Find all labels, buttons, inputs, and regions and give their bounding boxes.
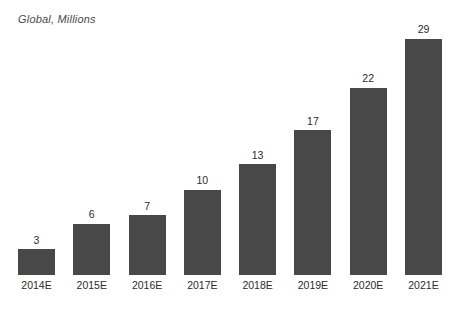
bar-value-label: 17 xyxy=(307,116,319,127)
bar-value-label: 10 xyxy=(197,175,209,186)
bar-group[interactable]: 10 xyxy=(184,24,221,275)
bar-rect[interactable] xyxy=(184,190,221,275)
bar-group[interactable]: 22 xyxy=(350,24,387,275)
bars-row: 3 6 7 10 13 17 xyxy=(18,24,442,275)
bar-value-label: 22 xyxy=(362,73,374,84)
plot-area: 3 6 7 10 13 17 xyxy=(18,24,442,275)
bar-value-label: 6 xyxy=(89,209,95,220)
x-tick-label: 2021E xyxy=(405,279,442,291)
bar-group[interactable]: 13 xyxy=(239,24,276,275)
x-tick-label: 2015E xyxy=(73,279,110,291)
x-tick-label: 2017E xyxy=(184,279,221,291)
bar-rect[interactable] xyxy=(239,164,276,275)
bar-rect[interactable] xyxy=(18,249,55,275)
x-axis-tick-labels: 2014E 2015E 2016E 2017E 2018E 2019E 2020… xyxy=(18,279,442,291)
bar-rect[interactable] xyxy=(350,88,387,275)
bar-group[interactable]: 7 xyxy=(129,24,166,275)
bar-group[interactable]: 6 xyxy=(73,24,110,275)
bar-rect[interactable] xyxy=(73,224,110,275)
bar-rect[interactable] xyxy=(129,215,166,275)
bar-value-label: 29 xyxy=(418,24,430,35)
bar-value-label: 3 xyxy=(34,235,40,246)
bar-value-label: 13 xyxy=(252,150,264,161)
bar-rect[interactable] xyxy=(294,130,331,275)
bar-rect[interactable] xyxy=(405,39,442,276)
bar-value-label: 7 xyxy=(144,201,150,212)
x-tick-label: 2016E xyxy=(129,279,166,291)
x-tick-label: 2020E xyxy=(350,279,387,291)
x-tick-label: 2014E xyxy=(18,279,55,291)
bar-group[interactable]: 29 xyxy=(405,24,442,275)
x-tick-label: 2019E xyxy=(294,279,331,291)
bar-group[interactable]: 3 xyxy=(18,24,55,275)
bar-chart-figure: Global, Millions 3 6 7 10 13 xyxy=(0,0,454,309)
x-tick-label: 2018E xyxy=(239,279,276,291)
bar-group[interactable]: 17 xyxy=(294,24,331,275)
